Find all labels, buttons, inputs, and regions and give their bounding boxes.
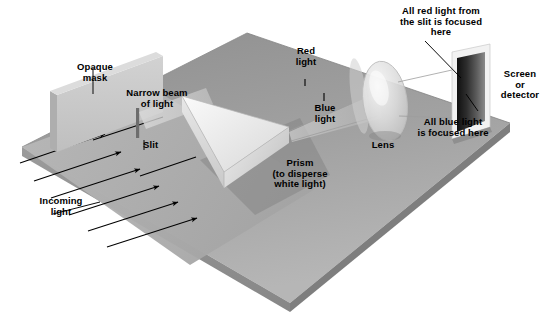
diagram-canvas: Opaque mask Narrow beam of light Slit In… — [0, 0, 548, 332]
mask-side — [50, 91, 57, 152]
label-prism: Prism (to disperse white light) — [244, 158, 356, 190]
label-narrow-beam: Narrow beam of light — [108, 88, 206, 109]
label-lens: Lens — [362, 140, 404, 151]
converge-ray-red — [398, 70, 452, 82]
label-slit: Slit — [143, 140, 177, 151]
label-opaque-mask: Opaque mask — [58, 62, 132, 83]
slit-bar — [136, 108, 139, 138]
label-red-light: Red light — [284, 46, 328, 67]
label-red-focus: All red light from the slit is focused h… — [379, 6, 503, 38]
label-blue-focus: All blue light is focused here — [400, 117, 506, 138]
label-blue-light: Blue light — [302, 103, 348, 124]
label-incoming-light: Incoming light — [22, 196, 100, 217]
label-screen-detector: Screen or detector — [495, 69, 545, 101]
